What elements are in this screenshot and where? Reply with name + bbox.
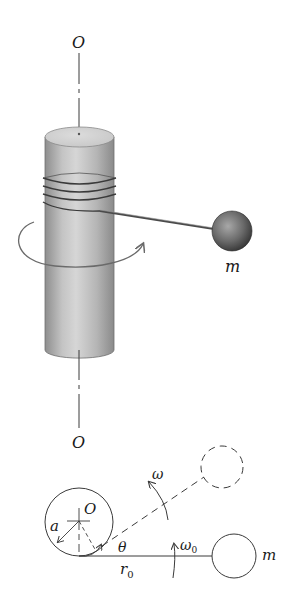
- plan-view: O a θ r0 m ω0 ω: [45, 446, 276, 580]
- axis-top-label: O: [72, 33, 85, 52]
- diagram-canvas: O m O: [0, 0, 297, 608]
- omega-label: ω: [152, 466, 164, 482]
- plan-mass-label: m: [262, 546, 276, 564]
- tangent-radius-dashed: [79, 521, 96, 551]
- cylinder-body: [45, 137, 114, 358]
- axis-point-top: [78, 133, 80, 135]
- perspective-view: O m O: [19, 33, 252, 452]
- omega0-label: ω0: [180, 537, 197, 555]
- axis-bottom-label: O: [72, 433, 85, 452]
- mass-ball: [212, 211, 252, 251]
- theta-label: θ: [118, 539, 127, 555]
- radius-label: a: [50, 517, 59, 535]
- mass-later-circle: [201, 446, 243, 488]
- string-highlight: [100, 210, 214, 228]
- center-label: O: [84, 500, 96, 518]
- omega-arrow-icon: [149, 482, 168, 520]
- mass-label: m: [225, 257, 240, 276]
- r0-label: r0: [120, 560, 134, 580]
- later-string-dashed: [102, 477, 204, 546]
- string: [100, 211, 214, 229]
- omega0-arrow-icon: [173, 544, 175, 578]
- cylinder-top: [45, 127, 114, 147]
- radius-arrow-icon: [58, 521, 79, 542]
- mass-initial-circle: [212, 534, 256, 578]
